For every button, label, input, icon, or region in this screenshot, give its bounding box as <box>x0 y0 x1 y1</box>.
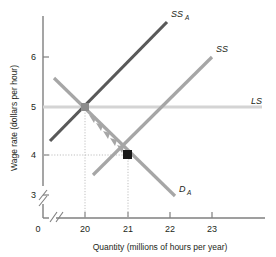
x-tick-label-22: 22 <box>165 224 175 234</box>
curve-label-d-a-sub: A <box>186 189 191 196</box>
curve-label-d-a: D <box>179 184 186 194</box>
equilibrium-marker-initial <box>81 103 89 111</box>
x-tick-label-20: 20 <box>80 224 90 234</box>
chart-container: 6 5 4 3 0 20 21 22 23 Wage rate (dollars… <box>0 0 276 257</box>
y-tick-label-4: 4 <box>31 150 36 160</box>
droplines <box>43 107 128 218</box>
labor-market-chart: 6 5 4 3 0 20 21 22 23 Wage rate (dollars… <box>0 0 276 257</box>
x-break-mark-2 <box>56 212 63 222</box>
curve-label-ss-a-sub: A <box>184 14 189 21</box>
origin-label: 0 <box>35 224 40 234</box>
curve-ss-a <box>50 22 167 141</box>
curve-d-a <box>54 78 175 196</box>
x-ticks <box>85 212 212 218</box>
x-axis-title: Quantity (millions of hours per year) <box>93 242 228 252</box>
curve-ss <box>93 57 212 175</box>
curve-label-ss: SS <box>216 44 228 54</box>
x-break-mark-1 <box>50 212 57 222</box>
x-tick-label-23: 23 <box>207 224 217 234</box>
y-ticks <box>43 57 49 195</box>
curve-label-ls: LS <box>251 96 262 106</box>
x-tick-label-21: 21 <box>123 224 133 234</box>
curve-label-ss-a: SS <box>171 9 183 19</box>
y-tick-label-6: 6 <box>31 52 36 62</box>
y-tick-label-5: 5 <box>31 102 36 112</box>
equilibrium-marker-new <box>123 150 132 159</box>
y-tick-label-3: 3 <box>31 190 36 200</box>
y-axis-title: Wage rate (dollars per hour) <box>9 65 19 171</box>
axes <box>43 16 265 218</box>
